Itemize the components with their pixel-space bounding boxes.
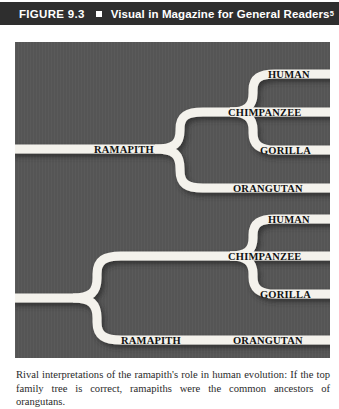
label-bottom-ramapith: RAMAPITH	[121, 336, 181, 347]
label-top-human: HUMAN	[268, 70, 310, 81]
label-top-orangutan: ORANGUTAN	[233, 184, 303, 195]
label-top-ramapith: RAMAPITH	[94, 145, 154, 156]
panel-background	[15, 42, 330, 358]
figure-header-bar: FIGURE 9.3 Visual in Magazine for Genera…	[0, 2, 339, 25]
figure-number: FIGURE 9.3	[19, 8, 85, 20]
square-bullet-icon	[96, 11, 102, 17]
label-top-chimpanzee: CHIMPANZEE	[228, 108, 302, 119]
evolutionary-tree-diagram	[15, 42, 330, 358]
figure-title: Visual in Magazine for General Readers	[111, 8, 330, 20]
label-bottom-gorilla: GORILLA	[260, 290, 311, 301]
diagram-panel: HUMAN CHIMPANZEE GORILLA ORANGUTAN RAMAP…	[15, 42, 330, 358]
label-bottom-orangutan: ORANGUTAN	[233, 336, 303, 347]
label-bottom-human: HUMAN	[268, 215, 310, 226]
figure-caption: Rival interpretations of the ramapith's …	[16, 368, 330, 409]
label-top-gorilla: GORILLA	[260, 146, 311, 157]
label-bottom-chimpanzee: CHIMPANZEE	[228, 252, 302, 263]
